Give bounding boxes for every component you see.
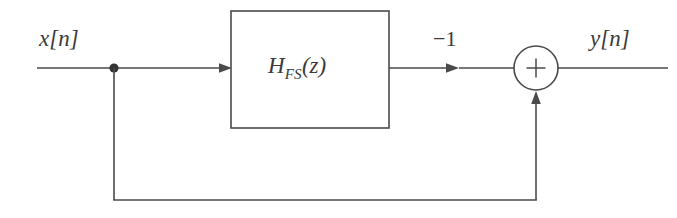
arrow-after-block-icon: [446, 63, 459, 73]
gain-label: −1: [433, 28, 456, 50]
output-signal-label: y[n]: [590, 27, 630, 50]
transfer-function-label-main: H: [268, 53, 285, 78]
arrow-into-summer-icon: [531, 91, 541, 104]
input-signal-label: x[n]: [39, 27, 79, 50]
arrow-into-block-icon: [219, 63, 232, 73]
block-diagram-svg: [0, 0, 677, 218]
transfer-function-label: HFS(z): [268, 54, 326, 81]
block-diagram-canvas: x[n] −1 y[n] HFS(z): [0, 0, 677, 218]
transfer-function-label-subscript: FS: [285, 65, 302, 82]
transfer-function-label-argument: (z): [302, 53, 326, 78]
